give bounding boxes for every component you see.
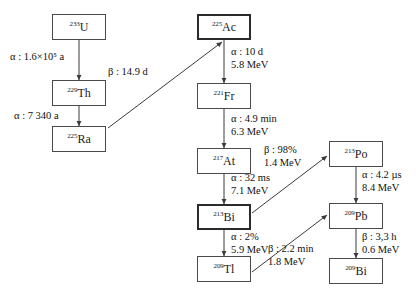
nuclide-label-ra225: 225Ra — [67, 133, 91, 145]
lbl-ra225-ac225: β : 14.9 d — [108, 66, 148, 79]
nuclide-label-tl209: 209Tl — [214, 263, 235, 275]
lbl-pb209-bi209-mode: β : 3,3 h — [362, 231, 399, 244]
mass-number-po213: 213 — [345, 147, 355, 155]
element-symbol-u233: U — [80, 20, 89, 34]
mass-number-bi209: 209 — [345, 264, 355, 272]
lbl-ra225-ac225-mode: β : 14.9 d — [108, 66, 148, 79]
nuclide-label-fr221: 221Fr — [214, 90, 235, 102]
mass-number-fr221: 221 — [214, 89, 224, 97]
lbl-u233-th229: α : 1.6×10⁵ a — [10, 51, 64, 64]
nuclide-box-po213: 213Po — [329, 141, 383, 167]
mass-number-u233: 233 — [70, 20, 80, 28]
lbl-bi213-tl209-mode: α : 2% — [231, 231, 268, 244]
lbl-bi213-po213-mode: β : 98% — [264, 144, 301, 157]
nuclide-box-fr221: 221Fr — [197, 83, 251, 109]
lbl-ac225-fr221-mode: α : 10 d — [231, 46, 268, 59]
lbl-bi213-po213-energy: 1.4 MeV — [264, 157, 301, 170]
element-symbol-po213: Po — [355, 147, 368, 161]
lbl-at217-bi213: α : 32 ms7.1 MeV — [231, 172, 270, 197]
nuclide-label-at217: 217At — [213, 155, 235, 167]
lbl-bi213-tl209: α : 2%5.9 MeV — [231, 231, 268, 256]
element-symbol-tl209: Tl — [224, 262, 235, 276]
mass-number-ra225: 225 — [67, 132, 77, 140]
element-symbol-pb209: Pb — [355, 209, 368, 223]
mass-number-th229: 229 — [67, 86, 77, 94]
lbl-ac225-fr221: α : 10 d5.8 MeV — [231, 46, 268, 71]
lbl-u233-th229-mode: α : 1.6×10⁵ a — [10, 51, 64, 64]
lbl-fr221-at217-mode: α : 4.9 min — [231, 113, 277, 126]
lbl-tl209-pb209-mode: β : 2.2 min — [268, 243, 314, 256]
nuclide-box-pb209: 209Pb — [329, 203, 383, 229]
nuclide-label-u233: 233U — [70, 21, 89, 33]
lbl-pb209-bi209-energy: 0.6 MeV — [362, 244, 399, 257]
element-symbol-bi209: Bi — [355, 264, 366, 278]
decay-chain-diagram: 233U229Th225Ra225Ac221Fr217At213Bi209Tl2… — [0, 0, 416, 291]
lbl-po213-pb209-energy: 8.4 MeV — [362, 182, 402, 195]
nuclide-box-bi209: 209Bi — [329, 258, 383, 284]
nuclide-label-pb209: 209Pb — [345, 210, 368, 222]
lbl-th229-ra225-mode: α : 7 340 a — [14, 110, 59, 123]
element-symbol-bi213: Bi — [223, 210, 234, 224]
lbl-po213-pb209: α : 4.2 µs8.4 MeV — [362, 169, 402, 194]
lbl-tl209-pb209-energy: 1.8 MeV — [268, 256, 314, 269]
element-symbol-ra225: Ra — [77, 132, 90, 146]
mass-number-ac225: 225 — [212, 20, 222, 28]
lbl-th229-ra225: α : 7 340 a — [14, 110, 59, 123]
lbl-pb209-bi209: β : 3,3 h0.6 MeV — [362, 231, 399, 256]
lbl-po213-pb209-mode: α : 4.2 µs — [362, 169, 402, 182]
lbl-ac225-fr221-energy: 5.8 MeV — [231, 59, 268, 72]
nuclide-box-th229: 229Th — [52, 80, 106, 106]
element-symbol-at217: At — [223, 154, 235, 168]
nuclide-label-po213: 213Po — [345, 148, 368, 160]
mass-number-pb209: 209 — [345, 209, 355, 217]
element-symbol-fr221: Fr — [224, 89, 235, 103]
lbl-fr221-at217-energy: 6.3 MeV — [231, 126, 277, 139]
lbl-tl209-pb209: β : 2.2 min1.8 MeV — [268, 243, 314, 268]
lbl-bi213-tl209-energy: 5.9 MeV — [231, 244, 268, 257]
element-symbol-th229: Th — [77, 86, 90, 100]
nuclide-box-u233: 233U — [52, 14, 106, 40]
lbl-bi213-po213: β : 98%1.4 MeV — [264, 144, 301, 169]
nuclide-label-bi209: 209Bi — [345, 265, 367, 277]
nuclide-box-tl209: 209Tl — [197, 256, 251, 282]
element-symbol-ac225: Ac — [222, 20, 236, 34]
lbl-at217-bi213-energy: 7.1 MeV — [231, 185, 270, 198]
nuclide-box-ra225: 225Ra — [52, 126, 106, 152]
nuclide-label-bi213: 213Bi — [213, 211, 235, 223]
mass-number-at217: 217 — [213, 154, 223, 162]
nuclide-label-ac225: 225Ac — [212, 21, 236, 33]
nuclide-box-ac225: 225Ac — [197, 14, 251, 40]
nuclide-label-th229: 229Th — [67, 87, 91, 99]
lbl-fr221-at217: α : 4.9 min6.3 MeV — [231, 113, 277, 138]
mass-number-bi213: 213 — [213, 210, 223, 218]
nuclide-box-bi213: 213Bi — [197, 204, 251, 230]
nuclide-box-at217: 217At — [197, 148, 251, 174]
mass-number-tl209: 209 — [214, 262, 224, 270]
